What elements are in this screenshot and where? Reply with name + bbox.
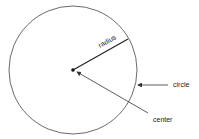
circle-diagram: radius circle center bbox=[0, 0, 199, 139]
center-arrow bbox=[77, 72, 148, 113]
circle-label: circle bbox=[173, 81, 189, 88]
center-label: center bbox=[153, 116, 173, 123]
